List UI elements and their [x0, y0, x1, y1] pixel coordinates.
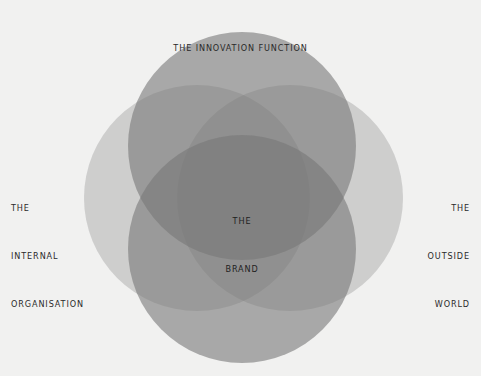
- label-line: THE INNOVATION FUNCTION: [0, 40, 481, 56]
- label-line: BRAND: [192, 261, 292, 277]
- label-line: OUTSIDE: [428, 248, 470, 264]
- label-the-brand: THE BRAND: [192, 181, 292, 309]
- venn-diagram: THE INNOVATION FUNCTION THE INTERNAL ORG…: [0, 0, 481, 376]
- label-line: THE: [11, 200, 84, 216]
- label-outside-world: THE OUTSIDE WORLD: [428, 168, 470, 344]
- label-internal-organisation: THE INTERNAL ORGANISATION: [11, 168, 84, 344]
- label-innovation-function: THE INNOVATION FUNCTION: [0, 8, 481, 88]
- label-line: WORLD: [428, 296, 470, 312]
- label-line: THE: [428, 200, 470, 216]
- label-line: THE: [192, 213, 292, 229]
- label-line: INTERNAL: [11, 248, 84, 264]
- label-line: ORGANISATION: [11, 296, 84, 312]
